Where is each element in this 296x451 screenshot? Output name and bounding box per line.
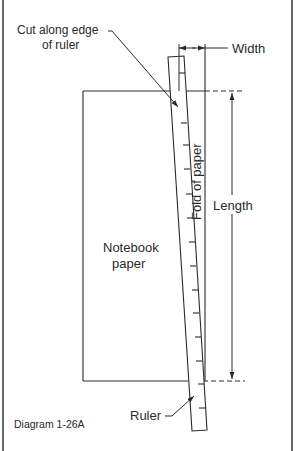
length-label: Length	[213, 198, 253, 213]
diagram-canvas: Width Length Fold of paper Cut along edg…	[0, 0, 296, 451]
paper-label-line2: paper	[112, 256, 146, 271]
cut-leader-line	[112, 31, 178, 107]
ruler	[168, 56, 207, 431]
paper-label-line1: Notebook	[103, 240, 159, 255]
cut-label-line1: Cut along edge	[17, 23, 99, 37]
cut-label-line2: of ruler	[42, 38, 79, 52]
fold-label: Fold of paper	[189, 143, 204, 220]
width-label: Width	[232, 41, 265, 56]
ruler-label: Ruler	[130, 408, 162, 423]
diagram-caption: Diagram 1-26A	[14, 418, 85, 430]
width-dimension	[179, 44, 228, 91]
extension-lines	[203, 91, 245, 381]
diagram-svg: Width Length Fold of paper Cut along edg…	[0, 0, 296, 451]
